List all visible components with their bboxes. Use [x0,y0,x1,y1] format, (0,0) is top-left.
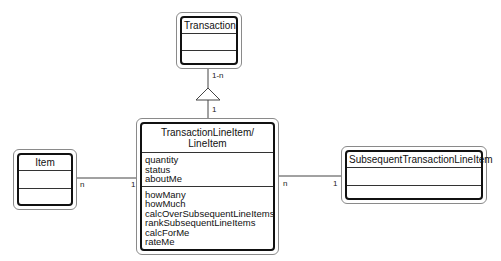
multiplicity-item: n [80,181,84,189]
attributes-compartment: quantity status aboutMe [142,153,273,187]
class-name: SubsequentTransactionLineItem [347,152,481,168]
operation: rateMe [145,237,270,247]
class-subsequent-transaction-line-item[interactable]: SubsequentTransactionLineItem [341,146,487,204]
multiplicity-line-item-right: n [283,180,287,188]
attributes-compartment [182,34,236,51]
multiplicity-line-item-top: 1 [212,106,216,114]
class-name: Item [19,155,71,171]
operations-compartment [182,51,236,63]
class-transaction[interactable]: Transaction [176,12,242,69]
class-name: TransactionLineItem/ LineItem [142,124,273,153]
operations-compartment [19,189,71,204]
class-item[interactable]: Item [13,149,77,210]
operations-compartment: howMany howMuch calcOverSubsequentLineIt… [142,187,273,250]
triangle-icon [196,88,220,100]
multiplicity-subsequent: 1 [333,180,337,188]
operations-compartment [347,186,481,198]
class-name: Transaction [182,18,236,34]
attributes-compartment [19,171,71,189]
multiplicity-line-item-left: 1 [131,181,135,189]
attribute: aboutMe [145,174,270,184]
multiplicity-transaction: 1-n [212,72,224,80]
class-transaction-line-item[interactable]: TransactionLineItem/ LineItem quantity s… [136,118,279,255]
attributes-compartment [347,168,481,186]
